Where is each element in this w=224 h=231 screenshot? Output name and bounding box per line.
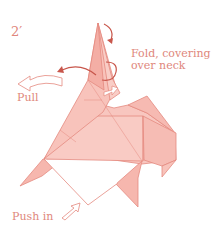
neck-fold-arrowhead bbox=[57, 66, 64, 73]
push-in-arrow bbox=[62, 203, 80, 220]
fold-instruction-line2: over neck bbox=[131, 60, 211, 72]
back-leg bbox=[116, 161, 142, 207]
head-fold-arrowhead bbox=[107, 38, 113, 44]
origami-figure bbox=[0, 0, 224, 231]
fold-instruction: Fold, covering over neck bbox=[131, 48, 211, 72]
step-number: 2′ bbox=[11, 26, 22, 38]
belly-fold bbox=[44, 159, 118, 205]
origami-diagram: 2′ Fold, covering over neck Pull Push in bbox=[0, 0, 224, 231]
pull-arrow bbox=[18, 75, 62, 91]
push-instruction: Push in bbox=[12, 211, 53, 223]
pull-instruction: Pull bbox=[17, 92, 39, 104]
